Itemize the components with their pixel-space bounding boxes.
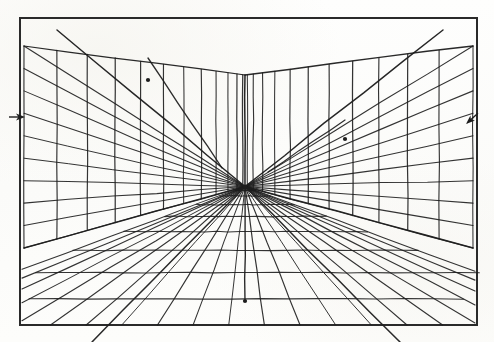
- floor-radial-4: [22, 187, 245, 321]
- left-wall-vertical-8: [216, 71, 217, 194]
- drawing-border: [20, 18, 477, 325]
- wall-corner-vertical: [245, 75, 246, 187]
- left-wall-diagonal-secondary: [148, 58, 222, 168]
- right-wall-vertical-0: [473, 46, 474, 248]
- floor-center-axis: [245, 187, 246, 302]
- floor-axis-dot: [243, 299, 247, 303]
- vanishing-point-dot: [243, 184, 247, 188]
- right-wall-vertical-1: [439, 50, 440, 239]
- floor-radial-21: [245, 187, 475, 272]
- perspective-grid-drawing: Two-point perspective interior grid Hand…: [0, 0, 494, 342]
- right-wall-vertical-2: [407, 54, 408, 230]
- floor-transverse-9: [29, 298, 463, 299]
- perspective-grid-canvas: [0, 0, 494, 342]
- left-wall-diagonal: [57, 30, 245, 187]
- right-wall-diagonal-secondary: [268, 120, 345, 172]
- left-wall-diagonal-node: [146, 78, 150, 82]
- right-wall-diagonal-node: [343, 137, 347, 141]
- floor-radial-5: [51, 187, 245, 326]
- floor-radial-16: [245, 187, 443, 326]
- floor-radial-11: [245, 187, 264, 326]
- left-wall-vertical-10: [237, 74, 238, 189]
- left-wall-vertical-11: [242, 75, 243, 187]
- floor-radial-2: [22, 187, 245, 289]
- floor-radial-3: [22, 187, 245, 303]
- left-horizon-arrow: [9, 114, 25, 121]
- right-wall-vertical-3: [379, 58, 380, 223]
- floor-radial-6: [86, 187, 245, 326]
- right-wall-vertical-10: [253, 74, 254, 189]
- right-wall-vertical-4: [352, 61, 353, 215]
- floor-radial-0: [22, 187, 245, 270]
- right-wall-vertical-7: [290, 69, 291, 198]
